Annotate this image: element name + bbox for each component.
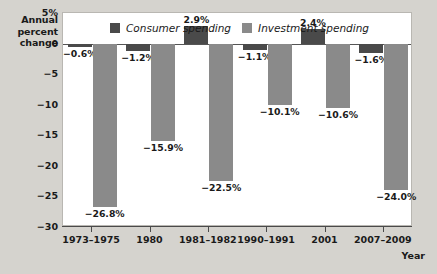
y-axis-tick-label: 0 [6, 37, 58, 48]
x-axis-tick-label: 2001 [311, 234, 337, 245]
bar-consumer [243, 44, 267, 51]
bar-investment [268, 44, 292, 106]
bar-value-label: −10.6% [312, 109, 364, 120]
legend-item-investment: Investment spending [242, 22, 369, 34]
y-axis-tick-label: −15 [6, 129, 58, 140]
bar-value-label: −10.1% [254, 106, 306, 117]
bar-investment [384, 44, 408, 191]
investment-swatch-icon [242, 23, 252, 33]
y-axis-tick-label: −20 [6, 159, 58, 170]
bar-value-label: −15.9% [137, 142, 189, 153]
chart-legend: Consumer spending Investment spending [110, 20, 369, 36]
bar-consumer [68, 44, 92, 48]
y-axis-tick-label: 5% [6, 7, 58, 18]
x-axis-tick-mark [325, 226, 326, 232]
x-axis-tick-label: 1990–1991 [237, 234, 295, 245]
x-axis-tick-mark [208, 226, 209, 232]
y-axis-tick-label: −10 [6, 98, 58, 109]
bar-investment [151, 44, 175, 141]
x-axis-tick-mark [91, 226, 92, 232]
bar-consumer [126, 44, 150, 51]
y-axis-tick-label: −30 [6, 221, 58, 232]
y-axis-tick-labels: 5%0−5−10−15−20−25−30 [4, 0, 58, 274]
bar-investment [93, 44, 117, 208]
bar-value-label: −26.8% [79, 208, 131, 219]
x-axis-tick-label: 2007–2009 [354, 234, 412, 245]
x-axis-tick-mark [383, 226, 384, 232]
bar-consumer [359, 44, 383, 54]
legend-label-investment: Investment spending [258, 22, 369, 34]
legend-label-consumer: Consumer spending [126, 22, 231, 34]
bar-investment [209, 44, 233, 182]
plot-area: −0.6%−26.8%−1.2%−15.9%2.9%−22.5%−1.1%−10… [62, 12, 412, 226]
legend-item-consumer: Consumer spending [110, 22, 231, 34]
x-axis-tick-mark [150, 226, 151, 232]
bar-chart: Annual percent change 5%0−5−10−15−20−25−… [0, 0, 437, 274]
x-axis-tick-label: 1981–1982 [179, 234, 237, 245]
x-axis-line [62, 226, 412, 227]
x-axis-tick-label: 1980 [136, 234, 162, 245]
y-axis-tick-label: −25 [6, 190, 58, 201]
x-axis-tick-label: 1973–1975 [62, 234, 120, 245]
y-axis-tick-label: −5 [6, 68, 58, 79]
consumer-swatch-icon [110, 23, 120, 33]
x-axis-title: Year [401, 250, 425, 261]
bar-investment [326, 44, 350, 109]
plot-inner: −0.6%−26.8%−1.2%−15.9%2.9%−22.5%−1.1%−10… [63, 13, 411, 225]
bar-value-label: −24.0% [370, 191, 422, 202]
bar-value-label: −22.5% [195, 182, 247, 193]
x-axis-tick-mark [266, 226, 267, 232]
